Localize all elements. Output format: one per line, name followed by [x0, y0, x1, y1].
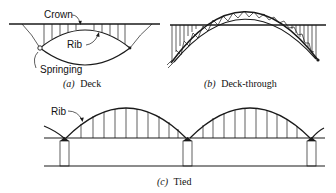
panel-deck-arch: Crown Rib Springing (a) Deck — [9, 9, 160, 90]
pier-right — [307, 141, 316, 166]
rib-label-deck: Rib — [67, 39, 82, 50]
left-springing-hinge-icon — [38, 46, 42, 50]
panel-deck-through-arch: (b) Deck-through — [167, 11, 326, 90]
hangers-arch-1 — [81, 108, 178, 138]
spandrel-columns — [44, 24, 125, 45]
rib-upper-arc — [40, 30, 130, 48]
rib-arrowhead-tied-icon — [80, 118, 84, 123]
rib-arrow-tied — [68, 111, 82, 120]
springing-label: Springing — [40, 64, 82, 75]
rib-arrowhead-icon — [96, 32, 100, 37]
panel-tied-arch: Rib (c) Tied — [44, 106, 325, 188]
arch-bridge-types-diagram: Crown Rib Springing (a) Deck — [0, 0, 336, 193]
hangers-arch-2 — [203, 108, 297, 138]
left-approach-arch — [44, 126, 64, 138]
rib-lower-arc — [40, 48, 130, 65]
pier-middle — [183, 141, 192, 166]
crown-arrow — [72, 15, 80, 23]
right-springing-point-icon — [129, 47, 132, 50]
left-approach-curve — [22, 24, 40, 48]
caption-deck: (a) Deck — [63, 78, 101, 90]
caption-deck-through: (b) Deck-through — [204, 78, 277, 90]
right-support-icon — [316, 58, 319, 61]
right-approach-curve — [130, 24, 152, 48]
caption-tied: (c) Tied — [157, 176, 191, 188]
right-approach-arch — [312, 128, 324, 138]
springing-leader — [34, 52, 38, 68]
crown-label: Crown — [44, 9, 73, 20]
pier-left — [60, 141, 69, 166]
tied-arch-rib-2 — [190, 108, 310, 138]
rib-arrow-deck — [86, 35, 98, 45]
rib-label-tied: Rib — [51, 106, 66, 117]
